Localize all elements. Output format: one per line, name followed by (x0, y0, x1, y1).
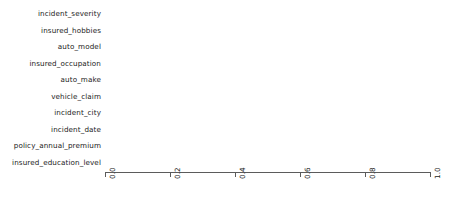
bar-vehicle_claim (105, 91, 158, 102)
bar-insured_education_level (105, 157, 151, 168)
y-label-auto_model: auto_model (58, 41, 101, 52)
bar-insured_occupation (105, 58, 220, 69)
feature-importance-bar-chart: incident_severityinsured_hobbiesauto_mod… (0, 0, 450, 207)
y-label-incident_city: incident_city (54, 107, 101, 118)
bar-incident_date (105, 124, 152, 135)
bar-insured_hobbies (105, 25, 390, 36)
bar-policy_annual_premium (105, 140, 151, 151)
y-label-insured_occupation: insured_occupation (29, 58, 101, 69)
bar-incident_city (105, 107, 153, 118)
x-tick-mark-1.0 (430, 173, 431, 177)
x-tick-label-0.8: 0.8 (368, 167, 377, 179)
y-label-incident_severity: incident_severity (38, 8, 101, 19)
bar-incident_severity (105, 8, 430, 19)
y-label-incident_date: incident_date (51, 124, 101, 135)
bar-auto_model (105, 41, 308, 52)
x-tick-mark-0.8 (365, 173, 366, 177)
y-label-insured_hobbies: insured_hobbies (41, 25, 101, 36)
x-tick-label-0.4: 0.4 (238, 167, 247, 179)
x-tick-mark-0.6 (300, 173, 301, 177)
y-label-insured_education_level: insured_education_level (12, 157, 101, 168)
x-tick-mark-0.2 (170, 173, 171, 177)
x-axis-line (105, 172, 431, 173)
x-tick-label-0.6: 0.6 (303, 167, 312, 179)
y-label-auto_make: auto_make (61, 74, 101, 85)
y-axis-category-labels: incident_severityinsured_hobbiesauto_mod… (0, 0, 101, 172)
x-tick-mark-0.4 (235, 173, 236, 177)
x-tick-label-0.0: 0.0 (108, 167, 117, 179)
x-tick-label-1.0: 1.0 (433, 167, 442, 179)
plot-area (105, 0, 430, 172)
x-tick-label-0.2: 0.2 (173, 167, 182, 179)
x-tick-mark-0.0 (105, 173, 106, 177)
y-label-policy_annual_premium: policy_annual_premium (14, 140, 101, 151)
y-label-vehicle_claim: vehicle_claim (51, 91, 101, 102)
bar-auto_make (105, 74, 180, 85)
